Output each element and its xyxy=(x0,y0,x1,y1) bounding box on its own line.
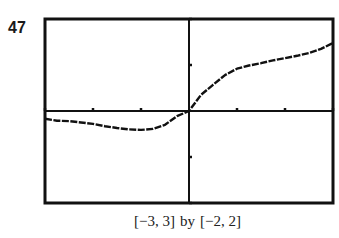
by-text: by xyxy=(180,213,195,229)
window-caption: [−3, 3]by[−2, 2] xyxy=(0,213,339,230)
x-window: [−3, 3] xyxy=(134,213,175,229)
y-window: [−2, 2] xyxy=(200,213,241,229)
calculator-graph xyxy=(0,0,339,238)
